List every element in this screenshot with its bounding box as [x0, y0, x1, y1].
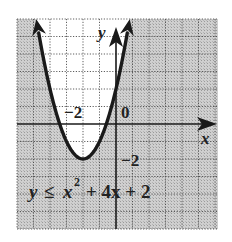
inequality-graph: y x −2 0 −2 y ≤ x 2 + 4x + 2: [0, 0, 232, 242]
origin-label: 0: [121, 103, 130, 122]
equation-exponent: 2: [74, 175, 80, 189]
x-axis-label: x: [200, 129, 210, 148]
x-tick-label-neg2: −2: [64, 103, 82, 122]
equation-x: x: [62, 181, 73, 202]
equation-op: ≤: [44, 181, 54, 202]
y-axis-label: y: [96, 23, 106, 42]
equation-rest: + 4x + 2: [86, 181, 150, 202]
equation-lhs: y: [27, 181, 38, 202]
y-tick-label-neg2: −2: [121, 151, 139, 170]
